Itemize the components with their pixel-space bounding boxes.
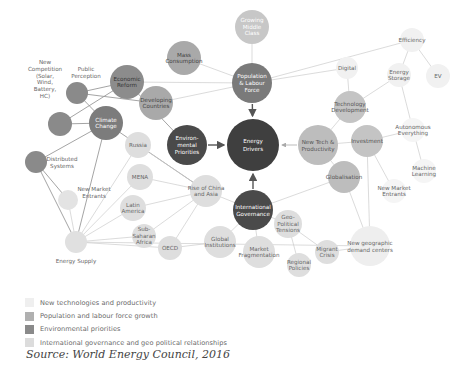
node-label: Mass	[177, 52, 191, 58]
node-label: Russia	[129, 142, 147, 148]
node-circle	[66, 82, 88, 104]
node-new-market-entrants-right: New MarketEntrants	[377, 179, 411, 203]
node-label: Investment	[351, 138, 383, 144]
node-label: Priorities	[175, 149, 200, 155]
new-market-entrants-left-label: New Market	[77, 186, 111, 192]
node-technology-development: TechnologyDevelopment	[331, 91, 369, 123]
node-label: International	[235, 204, 271, 210]
node-autonomous-everything: AutonomousEverything	[395, 118, 430, 142]
distributed-systems-label: Distributed	[46, 156, 78, 162]
new-competition-label: New	[39, 59, 52, 65]
node-public-perception-node	[66, 82, 88, 104]
node-label: Digital	[338, 65, 357, 72]
new-competition-label: HC)	[40, 93, 50, 99]
node-label: Change	[95, 123, 117, 130]
node-latin-america: LatinAmerica	[120, 195, 146, 221]
connection-line	[76, 123, 106, 242]
node-developing-countries: DevelopingCountries	[139, 86, 173, 120]
node-energy-supply-node	[65, 231, 87, 253]
node-label: Reform	[117, 82, 137, 88]
node-label: Consumption	[165, 58, 203, 65]
node-label: Entrants	[382, 191, 406, 197]
node-label: EV	[434, 73, 442, 79]
node-circle	[25, 151, 47, 173]
distributed-systems-label: Systems	[50, 163, 74, 170]
public-perception-label: Perception	[71, 73, 101, 80]
node-label: Climate	[95, 117, 117, 123]
node-label: Drivers	[243, 146, 263, 152]
node-label: Saharan	[132, 233, 156, 239]
node-label: Sub-	[138, 226, 151, 232]
node-digital: Digital	[336, 57, 358, 79]
public-perception-label: Public	[78, 66, 95, 72]
energy-drivers-diagram: EnergyDriversPopulation& LabourForceEnvi…	[0, 0, 475, 290]
legend-item-tech: New technologies and productivity	[25, 296, 227, 309]
legend-label: International governance and geo politic…	[40, 339, 227, 347]
node-label: and Asia	[194, 191, 218, 197]
legend-label: New technologies and productivity	[40, 299, 156, 307]
node-new-geographic-demand-centers: New geographicdemand centers	[347, 226, 393, 266]
node-label: OECD	[162, 245, 178, 251]
node-label: Countries	[143, 103, 170, 109]
node-label: Economic	[113, 76, 140, 82]
new-competition-label: (Solar,	[36, 73, 54, 79]
node-label: America	[121, 208, 144, 214]
node-geo-political-tensions: Geo-PoliticalTensions	[274, 210, 302, 238]
node-growing-middle-class: GrowingMiddleClass	[235, 10, 269, 44]
node-label: Policies	[289, 265, 310, 271]
node-label: demand centers	[347, 247, 393, 253]
new-competition-label: Wind,	[37, 79, 53, 85]
node-label: Market	[249, 246, 269, 252]
node-label: Efficiency	[399, 37, 427, 44]
node-new-competition-node	[48, 112, 72, 136]
node-oecd: OECD	[158, 236, 182, 260]
node-label: Learning	[412, 171, 437, 178]
node-label: Governance	[236, 211, 270, 217]
node-machine-learning: MachineLearning	[412, 159, 437, 183]
node-label: Class	[245, 30, 260, 36]
node-label: Fragmentation	[239, 252, 280, 259]
node-migrant-crisis: MigrantCrisis	[315, 240, 339, 264]
node-new-tech-productivity: New Tech &Productivity	[298, 125, 338, 165]
legend-swatch	[25, 312, 34, 321]
node-rise-of-china-asia: Rise of Chinaand Asia	[188, 175, 225, 207]
node-ev: EV	[426, 64, 450, 88]
node-label: & Labour	[239, 80, 265, 86]
legend-swatch	[25, 338, 34, 347]
node-label: Globalisation	[326, 174, 363, 180]
node-label: Population	[237, 73, 267, 80]
node-label: Environ-	[175, 135, 198, 141]
node-circle	[65, 231, 87, 253]
legend-label: Environmental priorities	[40, 325, 121, 333]
node-label: Productivity	[301, 146, 335, 153]
node-label: Everything	[398, 130, 429, 137]
node-label: Crisis	[319, 252, 334, 258]
node-circle	[58, 190, 78, 210]
node-energy-drivers: EnergyDrivers	[227, 119, 279, 171]
node-label: Latin	[126, 202, 140, 208]
node-label: Force	[244, 87, 260, 93]
legend: New technologies and productivity Popula…	[25, 296, 227, 350]
node-label: Energy	[243, 138, 263, 145]
node-label: Machine	[412, 165, 436, 171]
node-label: Institutions	[204, 242, 235, 248]
legend-item-population: Population and labour force growth	[25, 309, 227, 322]
node-label: Tensions	[275, 227, 300, 233]
node-circle	[48, 112, 72, 136]
node-label: New Tech &	[302, 139, 335, 145]
node-label: Middle	[243, 24, 262, 30]
legend-item-environment: Environmental priorities	[25, 323, 227, 336]
node-label: Geo-	[281, 214, 294, 220]
energy-supply-label: Energy Supply	[56, 258, 97, 265]
node-russia: Russia	[125, 132, 151, 158]
node-regional-policies: RegionalPolicies	[287, 253, 312, 277]
node-mass-consumption: MassConsumption	[165, 41, 203, 75]
node-label: New geographic	[347, 240, 392, 247]
node-distributed-systems-node	[25, 151, 47, 173]
node-label: Development	[331, 107, 369, 114]
legend-swatch	[25, 325, 34, 334]
legend-swatch	[25, 298, 34, 307]
node-sub-saharan-africa: Sub-SaharanAfrica	[132, 224, 156, 248]
node-label: Storage	[388, 75, 410, 82]
node-label: Rise of China	[188, 185, 225, 191]
